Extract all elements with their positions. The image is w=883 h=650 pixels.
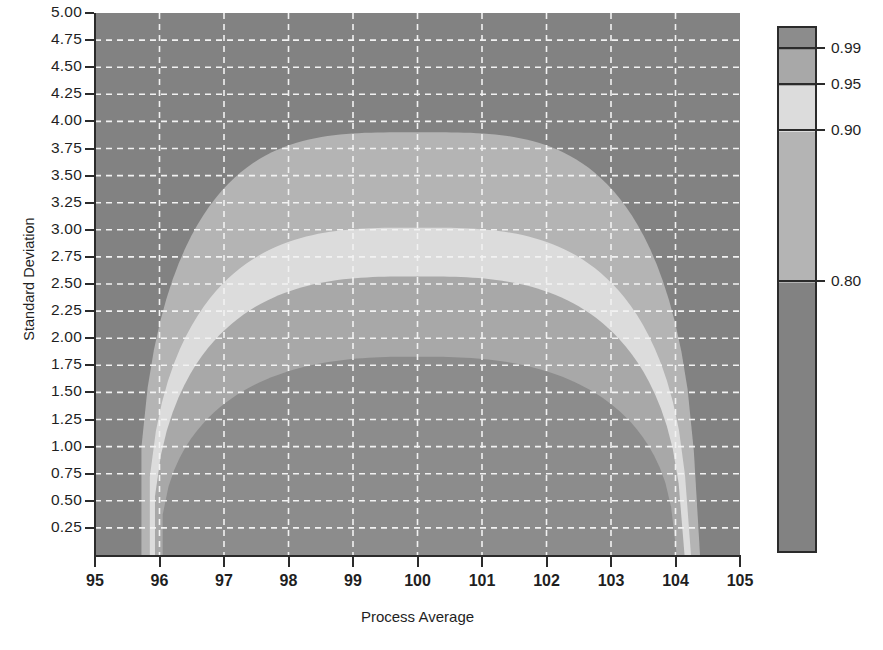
y-tick-label: 1.75 — [0, 355, 82, 373]
y-tick-label-text: 0.50 — [51, 491, 82, 508]
y-tick-mark — [85, 527, 94, 529]
x-tick-label-text: 97 — [215, 572, 233, 589]
chart-canvas: 0.250.500.751.001.251.501.752.002.252.50… — [0, 0, 883, 650]
y-tick-label: 2.50 — [0, 274, 82, 292]
y-tick-mark — [85, 364, 94, 366]
y-tick-label-text: 5.00 — [51, 3, 82, 20]
x-tick-mark — [288, 557, 290, 567]
y-tick-mark — [85, 202, 94, 204]
y-tick-label: 0.25 — [0, 518, 82, 536]
x-tick-label-text: 98 — [280, 572, 298, 589]
x-tick-mark — [481, 557, 483, 567]
y-tick-mark — [85, 256, 94, 258]
x-tick-mark — [223, 557, 225, 567]
y-tick-mark — [85, 446, 94, 448]
y-tick-label: 3.75 — [0, 139, 82, 157]
y-tick-label-text: 2.25 — [51, 301, 82, 318]
x-tick-label-text: 103 — [598, 572, 625, 589]
y-tick-label-text: 4.25 — [51, 84, 82, 101]
colorbar-segment-below-0.80 — [779, 283, 815, 553]
colorbar-tick-mark — [777, 47, 825, 49]
y-tick-label: 5.00 — [0, 3, 82, 21]
y-tick-mark — [85, 229, 94, 231]
x-tick-label: 99 — [323, 572, 383, 590]
x-tick-label: 101 — [452, 572, 512, 590]
y-tick-label-text: 0.25 — [51, 518, 82, 535]
y-tick-label-text: 2.50 — [51, 274, 82, 291]
x-tick-mark — [417, 557, 419, 567]
y-tick-label: 3.50 — [0, 166, 82, 184]
y-tick-label-text: 2.00 — [51, 328, 82, 345]
y-tick-label: 4.25 — [0, 84, 82, 102]
x-tick-mark — [546, 557, 548, 567]
y-tick-label-text: 1.25 — [51, 410, 82, 427]
y-tick-mark — [85, 419, 94, 421]
colorbar-tick-mark — [777, 129, 825, 131]
y-tick-mark — [85, 93, 94, 95]
y-tick-label-text: 2.75 — [51, 247, 82, 264]
x-tick-label-text: 96 — [151, 572, 169, 589]
y-tick-mark — [85, 120, 94, 122]
colorbar-tick-label: 0.95 — [831, 75, 861, 93]
x-tick-label-text: 100 — [404, 572, 431, 589]
y-tick-mark — [85, 337, 94, 339]
y-tick-mark — [85, 391, 94, 393]
x-tick-mark — [352, 557, 354, 567]
x-tick-label-text: 101 — [469, 572, 496, 589]
y-tick-label: 3.25 — [0, 193, 82, 211]
y-tick-label: 1.25 — [0, 410, 82, 428]
y-tick-label: 1.50 — [0, 382, 82, 400]
x-tick-label: 95 — [65, 572, 125, 590]
y-tick-label: 4.00 — [0, 111, 82, 129]
x-tick-mark — [159, 557, 161, 567]
colorbar-tick-label: 0.80 — [831, 272, 861, 290]
x-tick-mark — [94, 557, 96, 567]
y-tick-label: 2.00 — [0, 328, 82, 346]
x-tick-label: 100 — [388, 572, 448, 590]
plot-area — [95, 13, 740, 555]
y-axis-line — [94, 13, 96, 556]
y-tick-mark — [85, 66, 94, 68]
colorbar-tick-mark — [777, 280, 825, 282]
y-tick-mark — [85, 175, 94, 177]
y-tick-label-text: 3.25 — [51, 193, 82, 210]
y-tick-label: 2.25 — [0, 301, 82, 319]
y-axis-title: Standard Deviation — [21, 189, 37, 369]
y-tick-mark — [85, 310, 94, 312]
y-tick-label: 4.75 — [0, 30, 82, 48]
y-tick-label-text: 4.50 — [51, 57, 82, 74]
x-tick-label-text: 99 — [344, 572, 362, 589]
y-tick-label: 3.00 — [0, 220, 82, 238]
y-tick-mark — [85, 500, 94, 502]
x-tick-label: 103 — [581, 572, 641, 590]
y-tick-label-text: 3.00 — [51, 220, 82, 237]
x-tick-label: 102 — [517, 572, 577, 590]
x-tick-mark — [675, 557, 677, 567]
y-tick-label-text: 1.50 — [51, 382, 82, 399]
y-tick-mark — [85, 283, 94, 285]
x-tick-label: 97 — [194, 572, 254, 590]
colorbar-tick-mark — [777, 83, 825, 85]
x-tick-label-text: 95 — [86, 572, 104, 589]
y-tick-mark — [85, 39, 94, 41]
x-tick-label: 98 — [259, 572, 319, 590]
colorbar-legend — [777, 26, 817, 553]
y-tick-mark — [85, 148, 94, 150]
colorbar-segment-0.90-0.95 — [779, 86, 815, 132]
y-tick-label-text: 4.00 — [51, 111, 82, 128]
x-tick-label: 105 — [710, 572, 770, 590]
x-tick-label: 96 — [130, 572, 190, 590]
colorbar-segment-0.80-0.90 — [779, 132, 815, 283]
x-tick-mark — [610, 557, 612, 567]
x-tick-mark — [739, 557, 741, 567]
colorbar-segment-0.95-0.99 — [779, 50, 815, 86]
x-axis-title: Process Average — [95, 608, 740, 625]
colorbar-tick-label: 0.99 — [831, 39, 861, 57]
x-tick-label-text: 102 — [533, 572, 560, 589]
y-tick-label-text: 0.75 — [51, 464, 82, 481]
x-tick-label: 104 — [646, 572, 706, 590]
y-tick-label: 0.50 — [0, 491, 82, 509]
y-tick-label: 4.50 — [0, 57, 82, 75]
colorbar-tick-label: 0.90 — [831, 121, 861, 139]
y-tick-label-text: 1.00 — [51, 437, 82, 454]
